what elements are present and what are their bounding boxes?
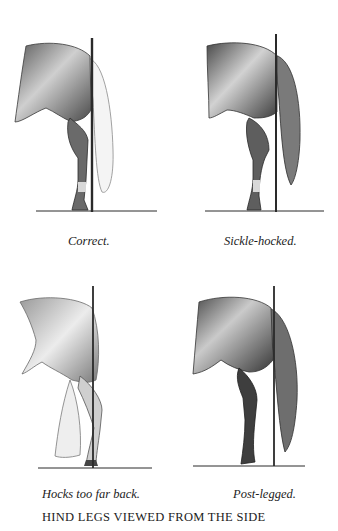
hind-leg-illustration-correct xyxy=(0,0,169,220)
caption-correct: Correct. xyxy=(68,234,110,249)
panel-sickle-hocked xyxy=(169,0,338,220)
caption-sickle-hocked: Sickle-hocked. xyxy=(224,234,297,249)
panel-hocks-too-far-back xyxy=(0,280,169,480)
caption-post-legged: Post-legged. xyxy=(233,487,296,502)
caption-hocks-too-far-back: Hocks too far back. xyxy=(42,487,140,502)
figure-title: HIND LEGS VIEWED FROM THE SIDE xyxy=(42,510,265,525)
panel-correct xyxy=(0,0,169,220)
panel-post-legged xyxy=(169,280,338,480)
hind-leg-illustration-post-legged xyxy=(169,280,338,480)
hind-leg-illustration-hocks-too-far-back xyxy=(0,280,169,480)
hind-leg-illustration-sickle-hocked xyxy=(169,0,338,220)
